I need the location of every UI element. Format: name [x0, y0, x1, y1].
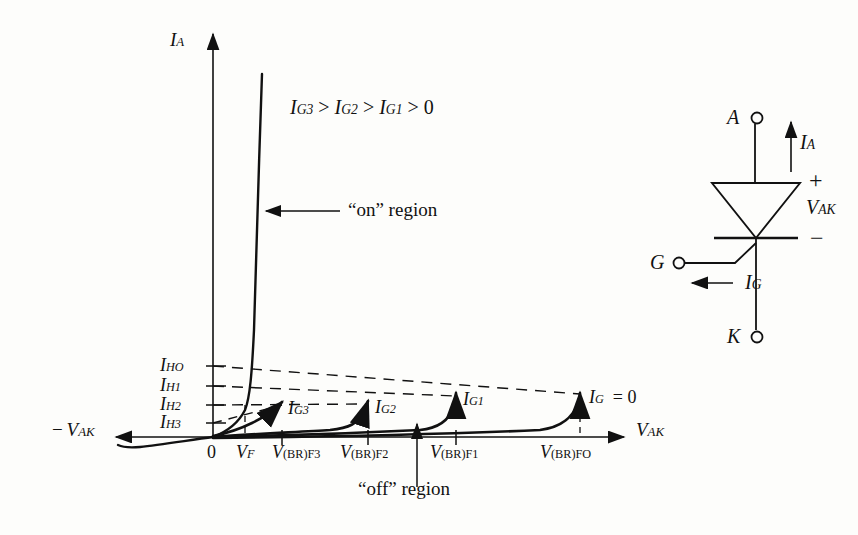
- curve-label-ig-zero: IG = 0: [589, 388, 637, 406]
- level-label-iho: IHO: [160, 356, 184, 374]
- curve-label-ig3: IG3: [288, 399, 309, 417]
- tick-label-vbr-f2: V(BR)F2: [340, 443, 388, 461]
- gate-current-inequality: IG3 > IG2 > IG1 > 0: [290, 97, 434, 117]
- tick-label-vf: VF: [236, 443, 254, 461]
- tick-label-vbr-f1: V(BR)F1: [430, 443, 478, 461]
- cathode-terminal: [752, 332, 763, 343]
- polarity-plus-label: +: [809, 168, 823, 192]
- level-label-ih2: IH2: [160, 395, 181, 413]
- thyristor-symbol-drawing: [0, 0, 858, 535]
- curve-label-ig2: IG2: [375, 398, 396, 416]
- cathode-label: K: [727, 326, 740, 346]
- gate-label: G: [650, 252, 664, 272]
- on-region-label: “on” region: [348, 200, 437, 219]
- tick-label-vbr-fo: V(BR)FO: [540, 443, 591, 461]
- y-axis-label: IA: [170, 30, 184, 49]
- gate-terminal: [674, 258, 685, 269]
- scr-triangle: [712, 183, 800, 238]
- level-label-ih3: IH3: [160, 413, 181, 431]
- figure-canvas: IA VAK − VAK 0 IG3 > IG2 > IG1 > 0 “on” …: [0, 0, 858, 535]
- gate-current-label: IG: [745, 272, 762, 292]
- anode-current-label: IA: [800, 132, 815, 152]
- tick-label-vbr-f3: V(BR)F3: [272, 443, 320, 461]
- off-region-label: “off” region: [358, 479, 450, 498]
- gate-lead: [685, 243, 756, 263]
- polarity-minus-label: −: [810, 226, 824, 250]
- anode-cathode-voltage-label: VAK: [806, 197, 836, 217]
- anode-terminal: [752, 113, 763, 124]
- x-axis-positive-label: VAK: [636, 420, 664, 439]
- origin-label: 0: [207, 443, 216, 461]
- level-label-ih1: IH1: [160, 376, 181, 394]
- x-axis-negative-label: − VAK: [52, 420, 95, 439]
- curve-label-ig1: IG1: [463, 390, 484, 408]
- anode-label: A: [727, 107, 739, 127]
